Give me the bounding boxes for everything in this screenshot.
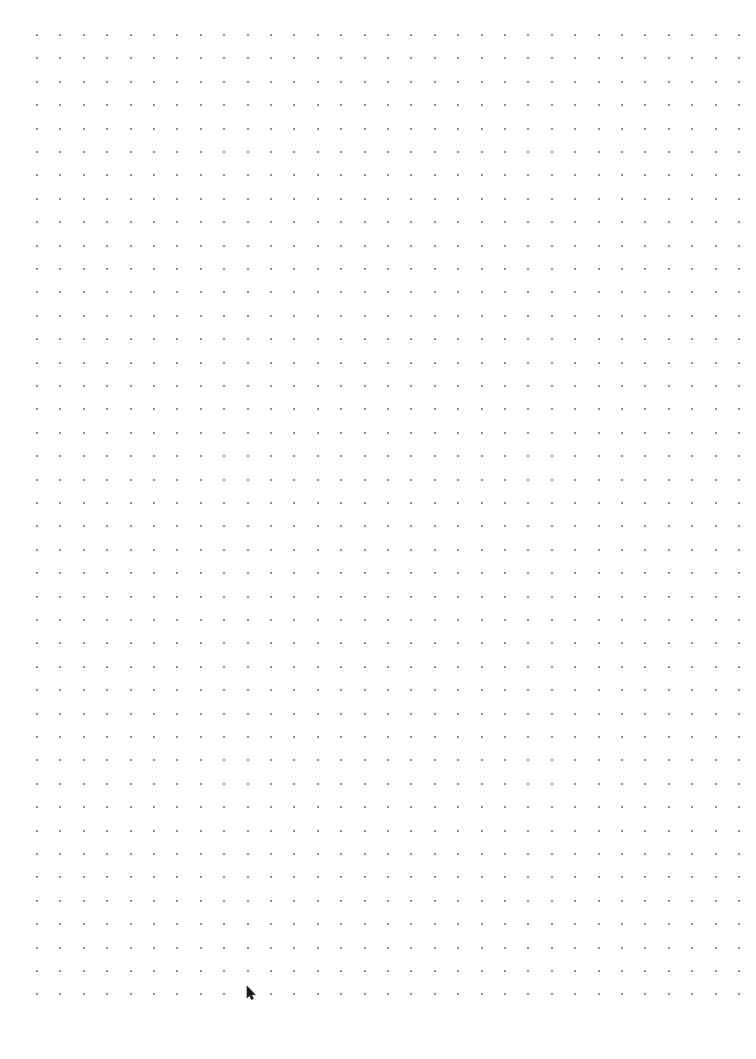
grid-dot (83, 689, 85, 691)
grid-dot (59, 759, 61, 761)
grid-dot (621, 713, 623, 715)
grid-dot (270, 900, 272, 902)
grid-dot (598, 853, 600, 855)
grid-dot (574, 549, 576, 551)
grid-dot (715, 853, 717, 855)
grid-dot (364, 34, 366, 36)
grid-dot (200, 104, 202, 106)
grid-dot (317, 759, 319, 761)
grid-dot (364, 783, 366, 785)
grid-dot (270, 736, 272, 738)
grid-dot (293, 806, 295, 808)
grid-dot (176, 502, 178, 504)
grid-dot (644, 198, 646, 200)
grid-dot (293, 315, 295, 317)
grid-dot (36, 174, 38, 176)
grid-dot (621, 853, 623, 855)
grid-dot (293, 128, 295, 130)
grid-dot (574, 128, 576, 130)
grid-dot (59, 853, 61, 855)
grid-dot (434, 830, 436, 832)
grid-dot (527, 315, 529, 317)
grid-dot (715, 385, 717, 387)
grid-dot (504, 502, 506, 504)
grid-dot (738, 619, 740, 621)
grid-dot (130, 783, 132, 785)
grid-dot (317, 923, 319, 925)
grid-dot (434, 198, 436, 200)
grid-dot (270, 619, 272, 621)
grid-dot (504, 525, 506, 527)
grid-dot (340, 759, 342, 761)
grid-dot (481, 993, 483, 995)
grid-dot (317, 479, 319, 481)
grid-dot (106, 596, 108, 598)
grid-dot (738, 876, 740, 878)
grid-dot (270, 830, 272, 832)
grid-dot (59, 174, 61, 176)
grid-dot (410, 549, 412, 551)
grid-dot (247, 853, 249, 855)
grid-dot (434, 783, 436, 785)
grid-dot (223, 923, 225, 925)
grid-dot (668, 572, 670, 574)
grid-dot (36, 151, 38, 153)
grid-dot (364, 198, 366, 200)
grid-dot (574, 689, 576, 691)
grid-dot (130, 830, 132, 832)
grid-dot (293, 572, 295, 574)
grid-dot (457, 174, 459, 176)
grid-dot (317, 151, 319, 153)
grid-dot (247, 923, 249, 925)
grid-dot (130, 642, 132, 644)
grid-dot (715, 455, 717, 457)
grid-dot (434, 876, 436, 878)
grid-dot (364, 947, 366, 949)
grid-dot (457, 362, 459, 364)
grid-dot (293, 104, 295, 106)
grid-dot (340, 783, 342, 785)
grid-dot (644, 759, 646, 761)
grid-dot (59, 151, 61, 153)
grid-dot (293, 57, 295, 59)
grid-dot (457, 198, 459, 200)
grid-dot (527, 619, 529, 621)
grid-dot (270, 806, 272, 808)
grid-dot (36, 736, 38, 738)
grid-dot (668, 104, 670, 106)
grid-dot (153, 923, 155, 925)
grid-dot (36, 759, 38, 761)
grid-dot (317, 34, 319, 36)
grid-dot (270, 502, 272, 504)
grid-dot (387, 362, 389, 364)
grid-dot (738, 57, 740, 59)
grid-dot (551, 642, 553, 644)
grid-dot (247, 736, 249, 738)
grid-dot (83, 104, 85, 106)
grid-dot (504, 736, 506, 738)
grid-dot (621, 291, 623, 293)
grid-dot (691, 759, 693, 761)
grid-dot (387, 268, 389, 270)
grid-dot (668, 408, 670, 410)
grid-dot (574, 174, 576, 176)
grid-dot (153, 759, 155, 761)
grid-dot (387, 900, 389, 902)
grid-dot (364, 151, 366, 153)
dot-grid-canvas[interactable] (0, 0, 756, 1059)
grid-dot (621, 221, 623, 223)
grid-dot (715, 713, 717, 715)
grid-dot (551, 57, 553, 59)
grid-dot (691, 362, 693, 364)
grid-dot (434, 432, 436, 434)
grid-dot (410, 806, 412, 808)
grid-dot (387, 34, 389, 36)
grid-dot (364, 642, 366, 644)
grid-dot (434, 151, 436, 153)
grid-dot (574, 736, 576, 738)
grid-dot (738, 104, 740, 106)
grid-dot (598, 713, 600, 715)
grid-dot (715, 759, 717, 761)
grid-dot (691, 34, 693, 36)
grid-dot (317, 502, 319, 504)
